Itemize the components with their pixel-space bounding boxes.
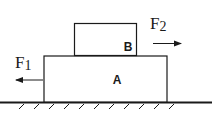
force-1-label: F1 xyxy=(15,53,31,73)
block-a-label: A xyxy=(113,73,122,87)
force-2-label: F2 xyxy=(150,14,166,34)
ground xyxy=(0,103,212,110)
block-diagram: A B F1 F2 xyxy=(0,0,217,120)
block-b-label: B xyxy=(124,40,133,54)
block-a xyxy=(44,56,167,102)
